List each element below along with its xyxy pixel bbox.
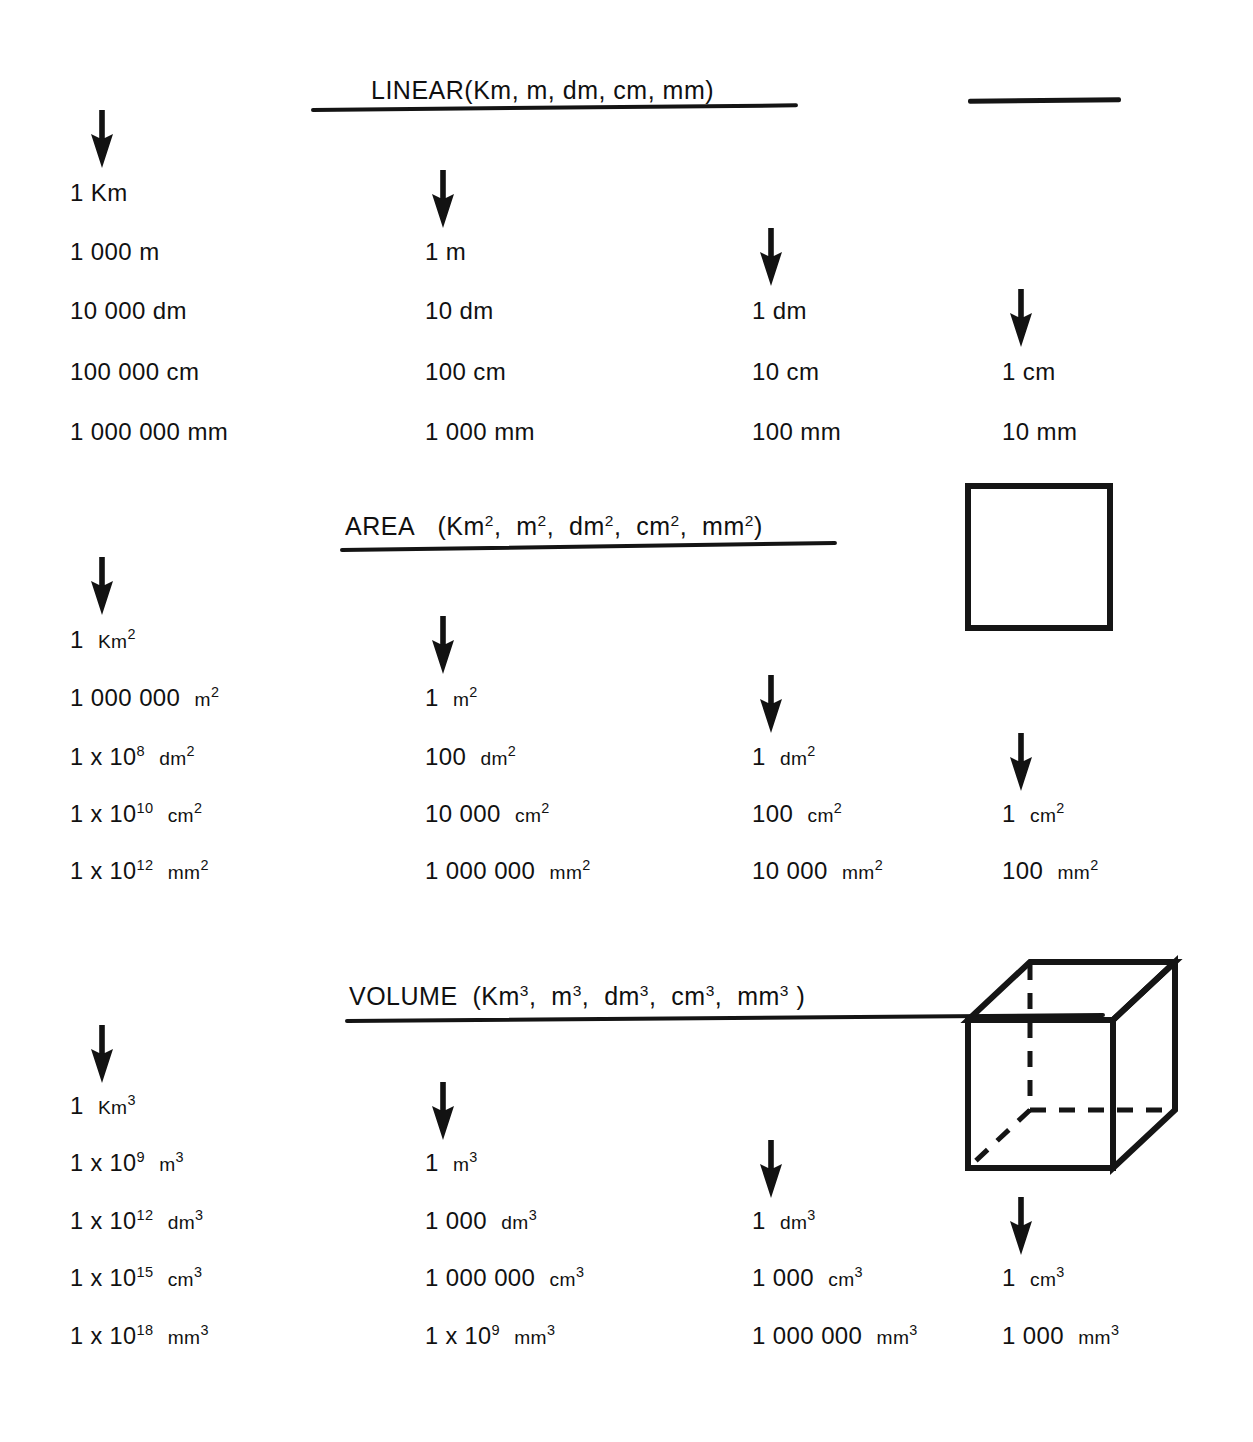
volume-c2-r4: 1 x 109 mm3	[425, 1322, 555, 1350]
down-arrow-volume-c2	[429, 1082, 457, 1140]
down-arrow-area-c2	[429, 616, 457, 674]
linear-c3-r3: 100 mm	[752, 418, 841, 446]
volume-c1-r3: 1 x 1012 dm3	[70, 1207, 204, 1235]
down-arrow-area-c3	[757, 675, 785, 733]
volume-c3-r3: 1 000 000 mm3	[752, 1322, 918, 1350]
area-c3-r2: 100 cm2	[752, 800, 842, 828]
volume-c3-r1: 1 dm3	[752, 1207, 816, 1235]
linear-c1-r2: 1 000 m	[70, 238, 160, 266]
linear-section-title: LINEAR(Km, m, dm, cm, mm)	[371, 76, 714, 105]
area-c1-r4: 1 x 1010 cm2	[70, 800, 202, 828]
down-arrow-linear-c1	[88, 110, 116, 168]
linear-c3-r1: 1 dm	[752, 297, 807, 325]
linear-c1-r5: 1 000 000 mm	[70, 418, 228, 446]
volume-c2-r1: 1 m3	[425, 1149, 478, 1177]
linear-c3-r2: 10 cm	[752, 358, 819, 386]
volume-section-title: VOLUME (Km3, m3, dm3, cm3, mm3 )	[349, 982, 805, 1011]
area-title-underline	[340, 541, 837, 552]
down-arrow-linear-c3	[757, 228, 785, 286]
volume-c4-r2: 1 000 mm3	[1002, 1322, 1119, 1350]
linear-title-units: (Km, m, dm, cm, mm)	[464, 76, 714, 104]
linear-c1-r4: 100 000 cm	[70, 358, 199, 386]
linear-c2-r3: 100 cm	[425, 358, 506, 386]
line-segment-figure	[968, 97, 1121, 103]
volume-c2-r2: 1 000 dm3	[425, 1207, 537, 1235]
down-arrow-linear-c4	[1007, 289, 1035, 347]
volume-c4-r1: 1 cm3	[1002, 1264, 1065, 1292]
area-section-title: AREA (Km2, m2, dm2, cm2, mm2)	[345, 512, 763, 541]
area-title-paren-open: (	[437, 512, 446, 540]
linear-c2-r1: 1 m	[425, 238, 466, 266]
area-c2-r1: 1 m2	[425, 684, 478, 712]
volume-title-name: VOLUME	[349, 982, 458, 1010]
area-c4-r2: 100 mm2	[1002, 857, 1099, 885]
area-c2-r4: 1 000 000 mm2	[425, 857, 591, 885]
linear-c2-r4: 1 000 mm	[425, 418, 535, 446]
area-c2-r3: 10 000 cm2	[425, 800, 550, 828]
area-c1-r5: 1 x 1012 mm2	[70, 857, 209, 885]
volume-c3-r2: 1 000 cm3	[752, 1264, 863, 1292]
volume-c1-r5: 1 x 1018 mm3	[70, 1322, 209, 1350]
down-arrow-volume-c4	[1007, 1197, 1035, 1255]
linear-c1-r1: 1 Km	[70, 179, 128, 207]
area-c3-r1: 1 dm2	[752, 743, 816, 771]
square-figure	[965, 483, 1113, 631]
linear-c1-r3: 10 000 dm	[70, 297, 187, 325]
cube-figure	[908, 948, 1208, 1178]
volume-c1-r2: 1 x 109 m3	[70, 1149, 184, 1177]
volume-c1-r4: 1 x 1015 cm3	[70, 1264, 202, 1292]
down-arrow-volume-c3	[757, 1140, 785, 1198]
down-arrow-linear-c2	[429, 170, 457, 228]
area-c4-r1: 1 cm2	[1002, 800, 1065, 828]
area-title-name: AREA	[345, 512, 415, 540]
down-arrow-volume-c1	[88, 1025, 116, 1083]
linear-c4-r2: 10 mm	[1002, 418, 1077, 446]
area-c2-r2: 100 dm2	[425, 743, 516, 771]
linear-c2-r2: 10 dm	[425, 297, 494, 325]
volume-c2-r3: 1 000 000 cm3	[425, 1264, 584, 1292]
down-arrow-area-c1	[88, 557, 116, 615]
area-c1-r2: 1 000 000 m2	[70, 684, 219, 712]
area-c1-r3: 1 x 108 dm2	[70, 743, 195, 771]
down-arrow-area-c4	[1007, 733, 1035, 791]
metric-conversion-chart: LINEAR(Km, m, dm, cm, mm) 1 Km 1 000 m 1…	[0, 0, 1253, 1442]
area-c1-r1: 1 Km2	[70, 626, 136, 654]
volume-title-paren-open: (	[473, 982, 482, 1010]
area-c3-r3: 10 000 mm2	[752, 857, 883, 885]
volume-c1-r1: 1 Km3	[70, 1092, 136, 1120]
linear-c4-r1: 1 cm	[1002, 358, 1056, 386]
linear-title-name: LINEAR	[371, 76, 464, 104]
